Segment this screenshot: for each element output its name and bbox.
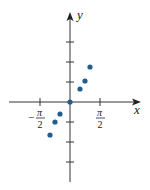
- data-point: [82, 78, 87, 83]
- data-point: [52, 119, 57, 124]
- x-tick-label-neg-half-pi: − π 2: [28, 107, 45, 130]
- svg-text:π: π: [97, 107, 103, 118]
- svg-text:−: −: [28, 111, 34, 123]
- x-tick-label-pos-half-pi: π 2: [96, 107, 105, 130]
- y-axis-label: y: [75, 7, 83, 22]
- data-point: [57, 111, 62, 116]
- data-point: [47, 132, 52, 137]
- data-point: [87, 64, 92, 69]
- scatter-plot: y x − π 2 π 2: [0, 0, 150, 190]
- svg-text:2: 2: [98, 119, 103, 130]
- svg-text:π: π: [37, 107, 43, 118]
- plot-canvas: y x − π 2 π 2: [0, 0, 150, 190]
- data-point: [67, 99, 72, 104]
- x-axis-label: x: [133, 102, 140, 117]
- data-point: [77, 86, 82, 91]
- svg-text:2: 2: [38, 119, 43, 130]
